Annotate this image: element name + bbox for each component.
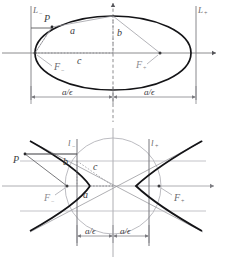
ellipse-y-axis xyxy=(111,3,115,122)
hyperbola-x-axis xyxy=(2,184,214,188)
hyperbola-focus-right-sublabel: + xyxy=(181,198,185,204)
ellipse-directrix-left-sublabel: − xyxy=(39,10,43,16)
hyperbola-focal-distance-label: c xyxy=(93,161,98,172)
hyperbola-point-p-dot xyxy=(24,153,27,156)
hyperbola-asymptotes xyxy=(30,141,203,232)
ellipse-dimension-right-label: a/ϵ xyxy=(144,87,155,97)
ellipse-focus-left-sublabel: − xyxy=(61,67,65,73)
hyperbola-directrix-right-label: l xyxy=(151,138,154,148)
ellipse-dimension-line xyxy=(31,86,196,104)
ellipse-directrix-right-sublabel: + xyxy=(204,10,208,16)
ellipse-focus-left-label: F xyxy=(53,61,61,72)
ellipse-semi-major-label: a xyxy=(70,25,75,36)
ellipse-semi-minor-label: b xyxy=(117,27,122,38)
ellipse-point-p-label: P xyxy=(43,13,50,24)
ellipse-directrix-right-label: L xyxy=(197,5,203,15)
ellipse-focus-right-sublabel: + xyxy=(143,65,147,71)
ellipse-dimension-left-label: a/ϵ xyxy=(62,87,73,97)
hyperbola-directrix-left-label: l xyxy=(68,138,71,148)
hyperbola-semi-transverse-label: a xyxy=(83,189,88,200)
hyperbola-focus-left-sublabel: − xyxy=(51,198,55,204)
hyperbola-focus-right-dot xyxy=(158,185,161,188)
hyperbola-focus-leaders xyxy=(55,188,172,195)
ellipse-construction-lines xyxy=(35,16,160,53)
ellipse-focus-right-label: F xyxy=(135,59,143,70)
ellipse-focus-right-dot xyxy=(159,52,162,55)
hyperbola-focus-right-label: F xyxy=(173,192,181,203)
conic-sections-figure: L − L + P a b c F − F + a/ϵ a/ϵ xyxy=(0,0,225,263)
hyperbola-figure: l − l + P b c a F − F + a/ϵ a/ϵ xyxy=(0,125,225,263)
hyperbola-dimension-right-label: a/ϵ xyxy=(120,226,131,236)
ellipse-focal-distance-label: c xyxy=(77,55,82,66)
hyperbola-semi-conjugate-label: b xyxy=(63,156,68,167)
hyperbola-point-p-label: P xyxy=(12,154,19,165)
ellipse-figure: L − L + P a b c F − F + a/ϵ a/ϵ xyxy=(0,0,225,125)
ellipse-focus-left-dot xyxy=(34,52,37,55)
hyperbola-directrix-left-sublabel: − xyxy=(72,143,76,149)
ellipse-point-p-dot xyxy=(51,26,54,29)
hyperbola-focus-left-label: F xyxy=(43,192,51,203)
hyperbola-focus-left-dot xyxy=(66,185,69,188)
hyperbola-directrix-right-sublabel: + xyxy=(155,143,159,149)
ellipse-directrix-left-label: L xyxy=(32,5,38,15)
hyperbola-dimension-left-label: a/ϵ xyxy=(85,226,96,236)
